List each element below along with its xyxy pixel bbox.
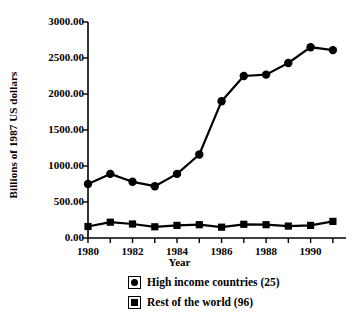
- legend-label-high-income: High income countries (25): [147, 276, 280, 288]
- series-high-income: [84, 43, 337, 190]
- circle-glyph: [131, 279, 138, 286]
- chart-legend: High income countries (25) Rest of the w…: [128, 272, 359, 312]
- circle-marker-icon: [128, 276, 141, 289]
- series-rest-of-world: [84, 218, 336, 231]
- square-glyph: [131, 299, 138, 306]
- legend-label-rest-of-world: Rest of the world (96): [147, 296, 253, 308]
- chart-figure: Billions of 1987 US dollars 0.00500.0010…: [0, 0, 359, 324]
- square-marker-icon: [128, 296, 141, 309]
- legend-item-high-income: High income countries (25): [128, 272, 359, 292]
- legend-item-rest-of-world: Rest of the world (96): [128, 292, 359, 312]
